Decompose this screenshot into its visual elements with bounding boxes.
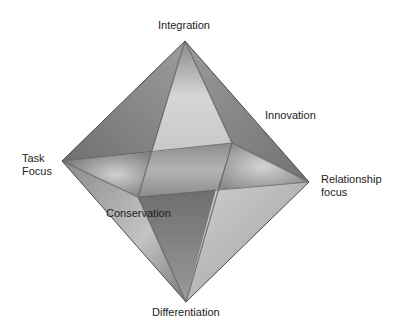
label-integration: Integration (158, 19, 210, 32)
label-task-line2: Focus (22, 165, 52, 178)
label-task-line1: Task (22, 152, 52, 165)
label-innovation: Innovation (265, 109, 316, 122)
label-differentiation: Differentiation (152, 306, 220, 319)
label-relationship-line1: Relationship (321, 173, 382, 186)
label-conservation: Conservation (106, 207, 171, 220)
label-relationship-focus: Relationship focus (321, 173, 382, 199)
octahedron-diagram (0, 0, 404, 327)
label-task-focus: Task Focus (22, 152, 52, 178)
label-relationship-line2: focus (321, 186, 382, 199)
